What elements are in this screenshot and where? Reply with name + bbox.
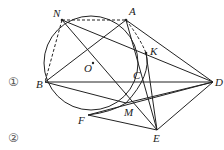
point-n-dot — [61, 19, 64, 22]
side-label-1: ① — [8, 75, 19, 89]
point-k-dot — [145, 52, 148, 55]
segment-fe — [88, 115, 157, 130]
label-e: E — [152, 132, 160, 144]
segment-md — [126, 82, 213, 103]
label-c: C — [133, 69, 141, 81]
point-o-dot — [92, 62, 94, 64]
segment-ne — [62, 20, 157, 130]
label-a: A — [128, 5, 136, 17]
label-d: D — [214, 76, 223, 88]
label-m: M — [123, 106, 134, 118]
label-o: O — [84, 62, 92, 74]
label-n: N — [52, 7, 61, 19]
segment-nb — [45, 20, 62, 82]
label-b: B — [36, 78, 43, 90]
label-k: K — [149, 45, 158, 57]
point-a-dot — [125, 19, 128, 22]
geometry-figure: N A K O C B D M F E ① ② — [0, 0, 224, 150]
segment-bm — [45, 82, 126, 103]
label-f: F — [77, 114, 85, 126]
side-label-2: ② — [8, 131, 19, 145]
